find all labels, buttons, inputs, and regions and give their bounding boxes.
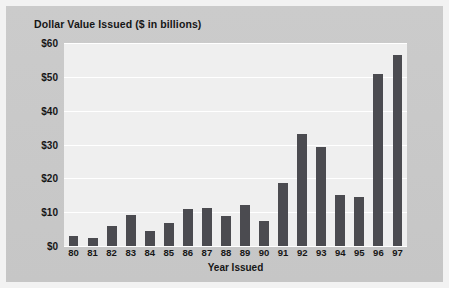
y-axis-tick-label: $60 [41, 38, 58, 49]
plot-area [64, 43, 407, 246]
bar [240, 205, 250, 246]
bar [297, 134, 307, 246]
bar [278, 183, 288, 246]
bar-series [64, 43, 407, 246]
x-axis-tick-label: 85 [164, 247, 175, 258]
x-axis-tick-label: 92 [297, 247, 308, 258]
bar [88, 238, 98, 246]
bar [373, 74, 383, 246]
chart-figure: Dollar Value Issued ($ in billions) $0$1… [6, 6, 443, 282]
x-axis-tick-label: 82 [106, 247, 117, 258]
x-axis-tick-label: 86 [183, 247, 194, 258]
x-axis-tick-label: 97 [392, 247, 403, 258]
y-axis-tick-label: $30 [41, 139, 58, 150]
chart-inner-panel: Dollar Value Issued ($ in billions) $0$1… [6, 6, 443, 282]
bar [69, 236, 79, 246]
bar [259, 221, 269, 246]
x-axis-tick-label: 88 [221, 247, 232, 258]
x-axis-tick-label: 90 [259, 247, 270, 258]
x-axis-tick-label: 91 [278, 247, 289, 258]
y-axis-tick-label: $20 [41, 173, 58, 184]
bar [393, 55, 403, 246]
x-axis-tick-label: 93 [316, 247, 327, 258]
bar [107, 226, 117, 246]
x-axis-tick-label: 94 [335, 247, 346, 258]
x-axis-tick-label: 96 [373, 247, 384, 258]
x-axis-tick-label: 81 [87, 247, 98, 258]
x-axis-tick-label: 84 [144, 247, 155, 258]
x-axis-tick-label: 83 [125, 247, 136, 258]
y-axis-tick-label: $10 [41, 207, 58, 218]
bar [316, 147, 326, 246]
x-axis-ticks: 808182838485868788899091929394959697 [64, 247, 407, 261]
bar [164, 223, 174, 246]
bar [354, 197, 364, 246]
x-axis-tick-label: 87 [202, 247, 213, 258]
bar [126, 215, 136, 246]
x-axis-tick-label: 95 [354, 247, 365, 258]
bar [183, 209, 193, 246]
y-axis-tick-label: $0 [47, 241, 58, 252]
bar [221, 216, 231, 246]
y-axis-tick-label: $40 [41, 105, 58, 116]
bar [202, 208, 212, 246]
chart-title: Dollar Value Issued ($ in billions) [34, 18, 201, 30]
bar [145, 231, 155, 246]
x-axis-tick-label: 80 [68, 247, 79, 258]
y-axis-ticks: $0$10$20$30$40$50$60 [6, 43, 62, 246]
y-axis-tick-label: $50 [41, 71, 58, 82]
bar [335, 195, 345, 246]
x-axis-label: Year Issued [64, 262, 407, 273]
x-axis-tick-label: 89 [240, 247, 251, 258]
